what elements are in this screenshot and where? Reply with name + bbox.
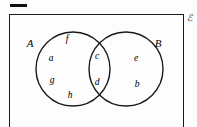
set-b-label: B: [155, 38, 162, 49]
set-b-circle: [89, 32, 163, 106]
element-h: h: [68, 91, 73, 101]
element-c: c: [95, 52, 99, 62]
element-d: d: [95, 78, 100, 88]
venn-circles-group: [0, 0, 197, 127]
element-e: e: [134, 54, 138, 64]
element-a: a: [49, 54, 54, 64]
set-a-label: A: [27, 38, 34, 49]
element-f: f: [66, 35, 69, 45]
element-g: g: [50, 76, 55, 86]
universal-set-symbol: ℰ: [187, 13, 192, 23]
venn-diagram-canvas: ℰ A B f a g h c d e b: [0, 0, 197, 127]
element-b: b: [135, 80, 140, 90]
